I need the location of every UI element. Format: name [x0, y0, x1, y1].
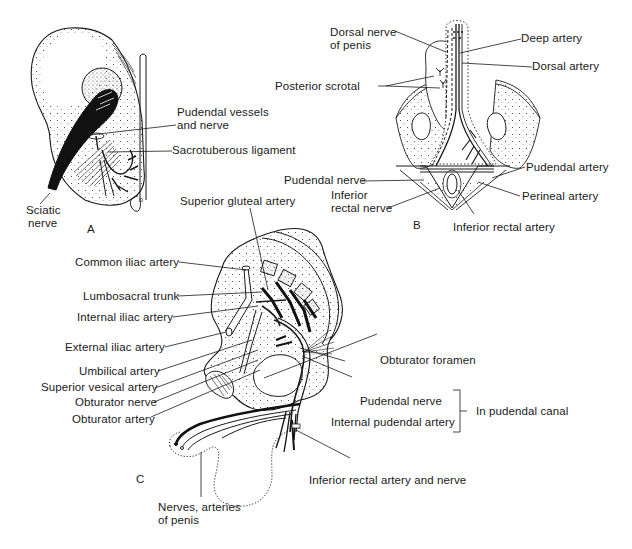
figure-b-drawing	[396, 21, 540, 211]
label-pudendal-nerve-c: Pudendal nerve	[360, 395, 442, 408]
panel-letter-b: B	[413, 219, 421, 231]
label-dorsal-nerve-line1: Dorsal nerve	[330, 26, 396, 39]
label-pudendal-artery-b: Pudendal artery	[526, 161, 609, 174]
label-inferior-rectal-nerve-line2: rectal nerve	[331, 202, 392, 215]
label-internal-iliac-artery: Internal iliac artery	[77, 311, 173, 324]
label-sciatic-line1: Sciatic	[26, 204, 61, 217]
label-inferior-rectal-artery-b: Inferior rectal artery	[453, 221, 555, 234]
label-pudendal-nerve-b: Pudendal nerve	[284, 174, 366, 187]
label-umbilical-artery: Umbilical artery	[79, 365, 160, 378]
label-common-iliac-artery: Common iliac artery	[75, 256, 179, 269]
label-obturator-artery: Obturator artery	[72, 413, 155, 426]
label-nerves-arteries-line2: of penis	[158, 514, 241, 527]
label-nerves-arteries-line1: Nerves, arteries	[158, 501, 241, 514]
label-inferior-rectal-nerve: Inferior rectal nerve	[331, 189, 392, 215]
label-sciatic-line2: nerve	[26, 217, 61, 230]
figure-a-drawing: o	[31, 28, 146, 211]
label-in-pudendal-canal: In pudendal canal	[476, 405, 569, 418]
label-internal-pudendal-artery: Internal pudendal artery	[331, 416, 455, 429]
label-posterior-scrotal: Posterior scrotal	[275, 80, 360, 93]
label-dorsal-nerve-line2: of penis	[330, 39, 396, 52]
label-sciatic-nerve: Sciatic nerve	[26, 204, 61, 230]
label-nerves-arteries-of-penis: Nerves, arteries of penis	[158, 501, 241, 527]
figure-c-drawing	[169, 229, 342, 507]
label-superior-gluteal-artery: Superior gluteal artery	[180, 195, 295, 208]
label-inferior-rectal-artery-and-nerve: Inferior rectal artery and nerve	[309, 474, 466, 487]
label-perineal-artery: Perineal artery	[522, 190, 598, 203]
label-lumbosacral-trunk: Lumbosacral trunk	[83, 290, 179, 303]
label-obturator-foramen: Obturator foramen	[380, 354, 476, 367]
label-pudendal-vessels-line1: Pudendal vessels	[177, 106, 269, 119]
label-superior-vesical-artery: Superior vesical artery	[41, 381, 158, 394]
label-inferior-rectal-nerve-line1: Inferior	[331, 189, 392, 202]
panel-letter-a: A	[87, 223, 95, 235]
label-pudendal-vessels-line2: and nerve	[177, 119, 269, 132]
label-dorsal-artery: Dorsal artery	[532, 60, 599, 73]
label-deep-artery: Deep artery	[521, 32, 582, 45]
label-dorsal-nerve-of-penis: Dorsal nerve of penis	[330, 26, 396, 52]
label-obturator-nerve: Obturator nerve	[75, 396, 157, 409]
label-pudendal-vessels: Pudendal vessels and nerve	[177, 106, 269, 132]
label-sacrotuberous-ligament: Sacrotuberous ligament	[172, 144, 296, 157]
panel-letter-c: C	[136, 473, 144, 485]
svg-text:o: o	[139, 196, 143, 203]
label-external-iliac-artery: External iliac artery	[65, 341, 165, 354]
